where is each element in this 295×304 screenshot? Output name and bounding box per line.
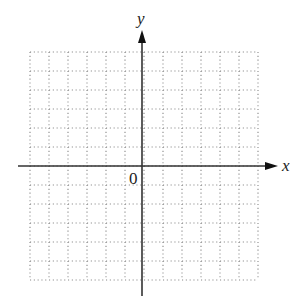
y-axis-label: y <box>135 9 145 28</box>
coordinate-plane: x y 0 <box>0 0 295 304</box>
x-axis-arrow-icon <box>265 162 278 170</box>
y-axis-arrow-icon <box>138 30 146 43</box>
x-axis-label: x <box>281 156 290 175</box>
origin-label: 0 <box>129 169 138 188</box>
